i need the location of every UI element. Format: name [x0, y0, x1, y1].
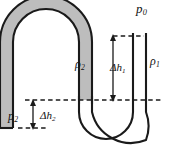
label-density-rho2: ρ2: [75, 58, 85, 70]
label-delta-h2: Δh2: [40, 110, 55, 121]
manometer-diagram: p0 ρ1 ρ2 p2 Δh1 Δh2: [0, 0, 173, 150]
label-density-rho1: ρ1: [150, 55, 160, 67]
label-delta-h1: Δh1: [110, 62, 125, 73]
label-ambient-pressure: p0: [136, 2, 147, 15]
manometer-drawing: [0, 0, 173, 150]
label-pressure-p2: p2: [8, 110, 18, 122]
dimension-delta-h2: [30, 99, 36, 130]
